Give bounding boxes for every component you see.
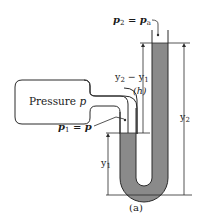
manometer-fluid [120,43,168,202]
label-p2-eq-pa: p2 = pa [113,14,151,27]
u-tube-inner [136,30,152,186]
p2-point-icon [157,34,159,36]
label-y2-minus-y1: y2 − y1 [114,71,149,84]
p1-point-icon [124,119,126,121]
caption: (a) [129,202,143,213]
label-pressure: Pressure p [29,95,86,107]
y2-arrow-icon [182,43,186,47]
manometer-diagram: p2 = pa Pressure p p1 = p y2 − y1 (h) y1… [0,0,202,217]
label-y2: y2 [179,111,190,124]
h-arrow-icon [141,43,145,47]
label-p1-eq-p: p1 = p [58,121,92,134]
label-h: (h) [133,85,147,96]
p2-leader-line [152,20,158,34]
y1-arrow-icon [106,133,110,137]
label-y1: y1 [100,157,111,170]
